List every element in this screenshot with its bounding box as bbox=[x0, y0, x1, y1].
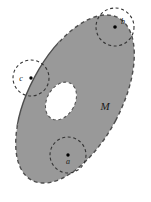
point-marker-c bbox=[29, 76, 32, 79]
point-label-a: a bbox=[66, 157, 70, 166]
region-label-M: M bbox=[99, 100, 110, 112]
manifold-diagram-svg: a b c M bbox=[0, 0, 151, 202]
point-label-c: c bbox=[19, 74, 23, 83]
figure-canvas: a b c M bbox=[0, 0, 151, 202]
point-label-b: b bbox=[121, 17, 125, 26]
point-marker-b bbox=[113, 25, 117, 29]
